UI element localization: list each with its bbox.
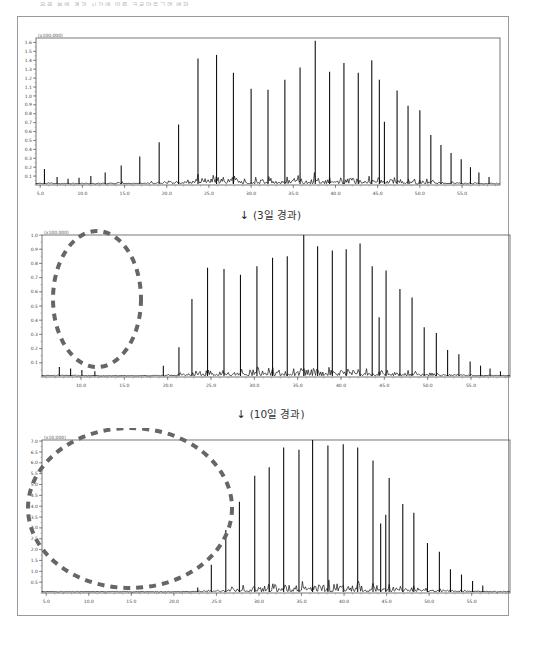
y-tick-label: 3.5: [31, 515, 38, 520]
y-tick-label: 0.1: [31, 360, 38, 365]
x-tick-label: 55.0: [467, 599, 477, 604]
y-tick-label: 0.6: [25, 129, 32, 134]
separator-label: (3일 경과): [253, 209, 301, 221]
y-tick-label: 1.2: [25, 76, 32, 81]
y-tick-label: 4.5: [31, 493, 38, 498]
separator-3-days: ↓(3일 경과): [0, 207, 541, 222]
y-tick-label: 7.0: [31, 439, 38, 444]
x-tick-label: 25.0: [211, 599, 221, 604]
y-tick-label: 0.7: [31, 275, 38, 280]
degradation-region-ellipse: [28, 428, 232, 588]
x-tick-label: 20.0: [162, 191, 172, 196]
x-tick-label: 10.0: [84, 599, 94, 604]
x-tick-label: 15.0: [120, 191, 130, 196]
y-tick-label: 1.1: [25, 85, 32, 90]
y-tick-label: 0.9: [25, 102, 32, 107]
y-tick-label: 0.5: [31, 580, 38, 585]
x-tick-label: 30.0: [246, 191, 256, 196]
y-tick-label: 0.5: [25, 138, 32, 143]
degradation-region-ellipse: [53, 231, 141, 367]
separator-10-days: ↓(10일 경과): [0, 406, 541, 421]
x-tick-label: 20.0: [169, 599, 179, 604]
y-tick-label: 0.5: [31, 304, 38, 309]
y-tick-label: 5.5: [31, 471, 38, 476]
chromatogram-3-days: (x100,000)0.10.20.30.40.50.60.70.80.91.0…: [0, 227, 541, 402]
x-tick-label: 25.0: [206, 383, 216, 388]
baseline-trace: [42, 367, 510, 376]
y-tick-label: 0.3: [31, 332, 38, 337]
y-tick-label: 1.4: [25, 58, 32, 63]
x-tick-label: 45.0: [373, 191, 383, 196]
x-tick-label: 15.0: [126, 599, 136, 604]
arrow-down-icon: ↓: [236, 408, 245, 421]
chromatogram-panel-initial: (x100,000)0.10.20.30.40.50.60.70.80.91.0…: [0, 30, 541, 205]
x-tick-label: 35.0: [288, 191, 298, 196]
x-tick-label: 30.0: [254, 599, 264, 604]
y-tick-label: 1.5: [31, 558, 38, 563]
y-tick-label: 6.0: [31, 460, 38, 465]
x-tick-label: 10.0: [76, 383, 86, 388]
y-tick-label: 0.3: [25, 156, 32, 161]
x-tick-label: 25.0: [204, 191, 214, 196]
x-tick-label: 40.0: [336, 383, 346, 388]
x-tick-label: 5.0: [37, 191, 44, 196]
x-tick-label: 15.0: [119, 383, 129, 388]
y-tick-label: 1.5: [25, 49, 32, 54]
x-tick-label: 40.0: [339, 599, 349, 604]
chromatogram-10-days: (x10,000)0.51.01.52.02.53.03.54.04.55.05…: [0, 428, 541, 613]
figure-top-caption: 유류 분해 경과 시간에 따른 크로마토그램 변화: [40, 0, 260, 6]
x-tick-label: 35.0: [297, 599, 307, 604]
y-tick-label: 1.0: [25, 94, 32, 99]
y-tick-label: 0.1: [25, 174, 32, 179]
x-tick-label: 55.0: [457, 191, 467, 196]
x-tick-label: 45.0: [382, 599, 392, 604]
y-multiplier-label: (x100,000): [38, 33, 63, 38]
y-tick-label: 2.0: [31, 547, 38, 552]
y-tick-label: 4.0: [31, 504, 38, 509]
x-tick-label: 5.0: [43, 599, 50, 604]
chromatogram-panel-3-days: (x100,000)0.10.20.30.40.50.60.70.80.91.0…: [0, 227, 541, 402]
y-tick-label: 6.5: [31, 450, 38, 455]
y-tick-label: 0.8: [25, 111, 32, 116]
y-multiplier-label: (x100,000): [44, 230, 69, 235]
separator-label: (10일 경과): [250, 408, 305, 420]
chromatogram-panel-10-days: (x10,000)0.51.01.52.02.53.03.54.04.55.05…: [0, 428, 541, 613]
arrow-down-icon: ↓: [240, 209, 249, 222]
x-tick-label: 10.0: [77, 191, 87, 196]
y-tick-label: 0.8: [31, 261, 38, 266]
x-tick-label: 45.0: [379, 383, 389, 388]
y-tick-label: 1.0: [31, 233, 38, 238]
x-tick-label: 50.0: [424, 599, 434, 604]
x-tick-label: 55.0: [466, 383, 476, 388]
y-tick-label: 1.3: [25, 67, 32, 72]
y-tick-label: 0.2: [25, 165, 32, 170]
x-tick-label: 50.0: [423, 383, 433, 388]
x-tick-label: 35.0: [293, 383, 303, 388]
x-tick-label: 50.0: [415, 191, 425, 196]
y-tick-label: 0.2: [31, 346, 38, 351]
x-tick-label: 40.0: [330, 191, 340, 196]
y-tick-label: 0.7: [25, 120, 32, 125]
chromatogram-initial: (x100,000)0.10.20.30.40.50.60.70.80.91.0…: [0, 30, 541, 205]
y-multiplier-label: (x10,000): [44, 435, 66, 440]
y-tick-label: 1.6: [25, 40, 32, 45]
plot-area: [42, 235, 510, 377]
x-tick-label: 30.0: [249, 383, 259, 388]
y-tick-label: 0.9: [31, 247, 38, 252]
y-tick-label: 0.4: [31, 318, 38, 323]
y-tick-label: 0.6: [31, 289, 38, 294]
y-tick-label: 1.0: [31, 569, 38, 574]
x-tick-label: 20.0: [163, 383, 173, 388]
y-tick-label: 0.4: [25, 147, 32, 152]
